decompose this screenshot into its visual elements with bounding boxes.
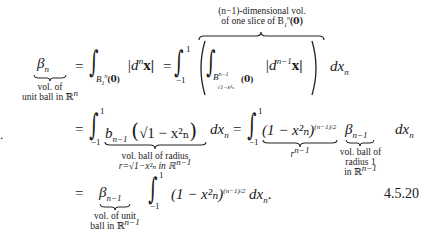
line2-int1-lower: −1 <box>91 137 101 147</box>
lhs-note-line2: unit ball in ℝn <box>4 92 96 102</box>
line1-dx: dxn <box>330 58 349 75</box>
line3-note: vol. of unit ball in ℝn−1 <box>84 211 146 231</box>
lhs-note-line1: vol. of <box>4 82 96 92</box>
line2-int2-lower: −1 <box>249 137 259 147</box>
overbrace-note-line1: (n−1)-dimensional vol. <box>200 6 324 16</box>
big-left-paren <box>196 40 206 96</box>
integrand-1: |dnx| <box>127 57 154 74</box>
inner-int-lower-limit: Bn−1 <box>213 72 229 82</box>
term3-note: vol. ball of radius 1 in ℝn−1 <box>333 147 388 177</box>
integral-sign-2: ∫ <box>174 47 183 77</box>
term1-note-line1: vol. ball of radius <box>100 151 210 161</box>
overbrace-slice <box>198 31 326 41</box>
line3-equals: = <box>75 185 83 202</box>
equation-number: 4.5.20 <box>384 186 419 202</box>
term2-note: rn−1 <box>280 149 320 159</box>
underbrace-lhs <box>33 74 67 82</box>
overbrace-note-line2: of one slice of B1n(𝟎) <box>200 16 324 26</box>
line3-int-lower: −1 <box>150 201 160 211</box>
line2-int1-upper: 1 <box>100 106 105 116</box>
underbrace-term1 <box>104 141 208 150</box>
line3-int-upper: 1 <box>159 170 164 180</box>
line2-term1: bn−1 (√1 − x²ₙ) <box>105 119 197 143</box>
stray-period: . <box>0 127 3 143</box>
lhs-note: vol. of unit ball in ℝn <box>4 82 96 102</box>
line3-integral-sign: ∫ <box>148 174 157 204</box>
line3-integrand: (1 − x²ₙ)(n−1)/2 dxn. <box>171 185 271 203</box>
line2-equals: = <box>75 121 83 138</box>
term3-note-line2: radius 1 <box>333 157 388 167</box>
line2-integral-sign-2: ∫ <box>247 110 256 140</box>
int2-lower-limit: −1 <box>176 75 186 85</box>
line2-term2: (1 − x²ₙ)(n−1)/2 <box>262 121 336 139</box>
term1-note-line2: r=√1−x²ₙ in ℝn−1 <box>100 161 210 171</box>
inner-integrand: |dn−1x| <box>265 57 303 74</box>
inner-int-lower-arg: (𝟎) <box>241 74 253 84</box>
line2-dx-2: dxn <box>395 121 414 138</box>
term3-note-line3: in ℝn−1 <box>333 167 388 177</box>
line1-equals-2: = <box>163 58 171 75</box>
line2-dx: dxn <box>210 121 229 138</box>
lhs-beta-sub: n <box>44 64 49 74</box>
term3-note-line1: vol. ball of <box>333 147 388 157</box>
line2-integral-sign-1: ∫ <box>89 110 98 140</box>
int1-lower-limit: B1n(𝟎) <box>96 74 120 84</box>
line3-note-line2: ball in ℝn−1 <box>84 221 146 231</box>
inner-int-lower-sqrt: √1−x²ₙ <box>217 83 234 90</box>
int2-upper-limit: 1 <box>186 44 191 54</box>
integral-sign-1: ∫ <box>89 47 98 77</box>
term1-note: vol. ball of radius r=√1−x²ₙ in ℝn−1 <box>100 151 210 171</box>
underbrace-line3 <box>99 203 131 211</box>
big-right-paren <box>311 40 321 96</box>
line3-beta: βn−1 <box>99 184 122 201</box>
line1-equals: = <box>75 58 83 75</box>
underbrace-term3 <box>345 139 375 147</box>
line2-int2-upper: 1 <box>258 106 263 116</box>
line2-term3: βn−1 <box>345 121 368 138</box>
lhs-beta: βn <box>37 55 49 72</box>
line2-equals-2: = <box>233 121 241 138</box>
overbrace-note: (n−1)-dimensional vol. of one slice of B… <box>200 6 324 26</box>
